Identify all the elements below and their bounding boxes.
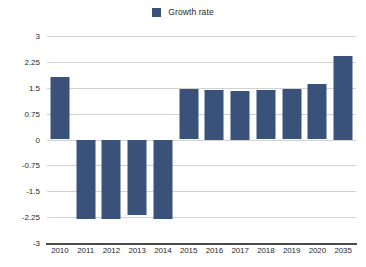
bar-2012 (102, 140, 121, 219)
y-axis-tick-label: -1.5 (4, 187, 40, 196)
y-axis-tick-label: -0.75 (4, 161, 40, 170)
legend-label-growth-rate: Growth rate (168, 7, 214, 17)
y-axis-tick-label: 1.5 (4, 83, 40, 92)
bar-2017 (231, 91, 250, 140)
bar-2013 (128, 140, 147, 216)
bar-2010 (50, 77, 69, 140)
bar-slot (253, 36, 279, 243)
bar-slot (202, 36, 228, 243)
bar-slot (124, 36, 150, 243)
bar-2015 (179, 89, 198, 139)
x-axis-tick-label: 2011 (73, 246, 99, 255)
bar-2020 (308, 84, 327, 140)
y-axis-tick-label: 3 (4, 32, 40, 41)
bar-2014 (153, 140, 172, 219)
y-axis-tick-label: -2.25 (4, 213, 40, 222)
bar-slot (305, 36, 331, 243)
x-axis-tick-label: 2020 (305, 246, 331, 255)
y-axis-tick-label: 0 (4, 135, 40, 144)
bar-2018 (256, 90, 275, 140)
chart-legend: Growth rate (0, 5, 366, 19)
bar-slot (47, 36, 73, 243)
x-axis-tick-label: 2014 (150, 246, 176, 255)
bar-2035 (334, 56, 353, 140)
bar-slot (227, 36, 253, 243)
bar-2019 (282, 89, 301, 140)
legend-swatch-growth-rate (152, 8, 161, 17)
x-axis-tick-label: 2010 (47, 246, 73, 255)
bar-chart: Growth rate 32.251.50.750-0.75-1.5-2.25-… (0, 0, 366, 267)
x-axis-tick-label: 2013 (124, 246, 150, 255)
y-axis-tick-label: 0.75 (4, 109, 40, 118)
x-axis-tick-label: 2012 (99, 246, 125, 255)
y-axis-tick-label: -3 (4, 239, 40, 248)
x-axis: 2010201120122013201420152016201720182019… (47, 246, 356, 255)
x-axis-tick-label: 2016 (202, 246, 228, 255)
bar-slot (73, 36, 99, 243)
x-axis-tick-label: 2018 (253, 246, 279, 255)
plot-area (47, 36, 356, 243)
x-axis-tick-label: 2019 (279, 246, 305, 255)
bar-slot (176, 36, 202, 243)
bar-slot (330, 36, 356, 243)
bar-slot (150, 36, 176, 243)
bar-2011 (76, 140, 95, 219)
bar-series-growth-rate (47, 36, 356, 243)
x-axis-baseline (46, 243, 357, 245)
bar-slot (99, 36, 125, 243)
x-axis-tick-label: 2017 (227, 246, 253, 255)
bar-2016 (205, 90, 224, 140)
x-axis-tick-label: 2035 (330, 246, 356, 255)
y-axis-tick-label: 2.25 (4, 57, 40, 66)
bar-slot (279, 36, 305, 243)
x-axis-tick-label: 2015 (176, 246, 202, 255)
